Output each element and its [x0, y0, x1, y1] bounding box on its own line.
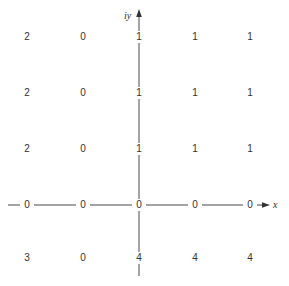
grid-value: 0 [76, 87, 90, 99]
y-axis-label: iy [124, 10, 131, 22]
grid-value: 1 [132, 87, 146, 99]
grid-value: 1 [132, 31, 146, 43]
grid-value: 2 [20, 31, 34, 43]
grid-value: 1 [243, 143, 257, 155]
grid-value: 4 [188, 252, 202, 264]
grid-value: 4 [132, 252, 146, 264]
grid-value: 1 [188, 143, 202, 155]
y-axis-arrow-icon [136, 9, 142, 17]
grid-value: 1 [188, 31, 202, 43]
grid-value: 2 [20, 143, 34, 155]
grid-value: 1 [132, 143, 146, 155]
grid-value: 0 [132, 199, 146, 211]
grid-value: 0 [188, 199, 202, 211]
x-axis-label: x [273, 199, 277, 211]
grid-value: 0 [76, 143, 90, 155]
grid-value: 1 [243, 31, 257, 43]
grid-value: 0 [76, 199, 90, 211]
grid-value: 0 [243, 199, 257, 211]
grid-value: 1 [188, 87, 202, 99]
grid-value: 4 [243, 252, 257, 264]
grid-value: 0 [76, 31, 90, 43]
grid-value: 0 [76, 252, 90, 264]
grid-value: 1 [243, 87, 257, 99]
coordinate-grid-diagram: iy x 2 0 1 1 1 2 0 1 1 1 2 0 1 1 1 0 0 0… [0, 0, 289, 286]
grid-value: 0 [20, 199, 34, 211]
grid-value: 3 [20, 252, 34, 264]
grid-value: 2 [20, 87, 34, 99]
x-axis-arrow-icon [262, 202, 270, 208]
